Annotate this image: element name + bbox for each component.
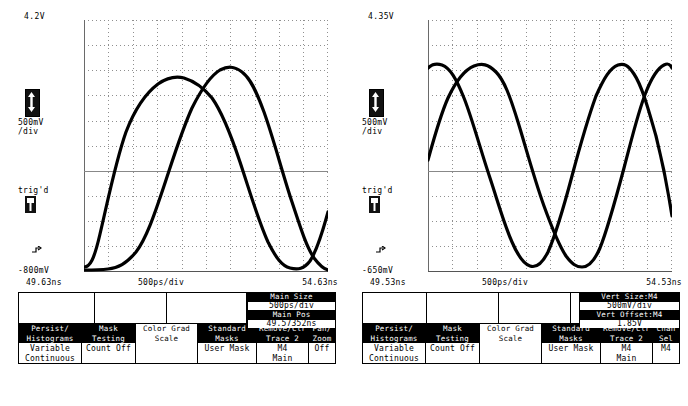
time-left-label-left: 49.63ns [26, 278, 62, 287]
menu-header-line2-5-left: Zoom [309, 334, 335, 344]
menu-body-line2-4-right: Main [601, 353, 652, 363]
menu-body-line1-1-left: Count Off [82, 343, 135, 353]
menu-item-color-grad-scale-right[interactable]: Color Grad Scale [480, 324, 542, 363]
menu-body-line1-4-right: M4 [601, 343, 652, 353]
menu-body-line2-5-left [309, 353, 335, 354]
menu-header-line2-0-left: Histograms [19, 334, 81, 344]
menu-blank-cell-1-right[interactable] [363, 293, 427, 323]
menu-header-line2-4-left: Trace 2 [257, 334, 308, 344]
menu-body-line1-3-left: User Mask [198, 343, 256, 353]
time-scale-label-left: 500ps/div [138, 278, 184, 287]
waveform-traces-right [428, 20, 672, 272]
menu-header-line1-0-left: Persist/ [19, 324, 81, 334]
menu-body-line2-2-right [480, 344, 541, 345]
menu-item-standard-masks-right[interactable]: Standard Masks User Mask [542, 324, 601, 363]
time-right-label-left: 54.63ns [302, 278, 338, 287]
menu-item-persist-histograms-left[interactable]: Persist/ Histograms Variable Continuous [19, 324, 82, 363]
waveform-plot-right [428, 20, 672, 272]
menu-blank-cell-2-left[interactable] [95, 293, 167, 323]
vertical-scale-left: 500mV/div [18, 118, 44, 136]
menu-header-line2-2-left: Scale [136, 334, 197, 344]
menu-lower-right: Persist/ Histograms Variable Continuous … [363, 324, 679, 363]
menu-body-line2-3-left [198, 353, 256, 354]
menu-body-line1-1-right: Count Off [426, 343, 479, 353]
menu-item-standard-masks-left[interactable]: Standard Masks User Mask [198, 324, 257, 363]
menu-header-line2-2-right: Scale [480, 334, 541, 344]
menu-item-remove-clr-trace2-left[interactable]: Remove/Clr Trace 2 M4 Main [257, 324, 309, 363]
vertical-top-label-left: 4.2V [24, 12, 45, 21]
menu-item-mask-testing-right[interactable]: Mask Testing Count Off [426, 324, 480, 363]
readout-value-1-right: 1.85V [580, 320, 679, 329]
waveform-plot-left [84, 20, 328, 272]
menu-body-line2-1-left [82, 353, 135, 354]
menu-body-line1-0-left: Variable [19, 343, 81, 353]
menu-bar-left: Main Size 500ps/div Main Pos 49.57352ns … [18, 292, 336, 364]
vertical-scale-unit-right: /div [362, 127, 382, 136]
time-right-label-right: 54.53ns [646, 278, 682, 287]
menu-bar-right: Vert Size:M4 500mV/div Vert Offset:M4 1.… [362, 292, 680, 364]
menu-header-line2-5-right: Sel [653, 334, 679, 344]
vertical-bottom-label-left: -800mV [18, 266, 49, 275]
menu-header-line1-2-left: Color Grad [136, 324, 197, 334]
menu-blank-cell-3-left[interactable] [167, 293, 247, 323]
menu-item-remove-clr-trace2-right[interactable]: Remove/Clr Trace 2 M4 Main [601, 324, 653, 363]
menu-upper-left: Main Size 500ps/div Main Pos 49.57352ns [19, 293, 335, 324]
menu-header-line2-0-right: Histograms [363, 334, 425, 344]
menu-header-line2-1-left: Testing [82, 334, 135, 344]
scope-panel-right: 4.35V 500mV/div trig'd [344, 0, 688, 406]
menu-header-line1-2-right: Color Grad [480, 324, 541, 334]
vertical-bottom-label-right: -650mV [362, 266, 393, 275]
vertical-scale-right: 500mV/div [362, 118, 388, 136]
menu-body-line2-2-left [136, 344, 197, 345]
menu-blank-cell-1-left[interactable] [19, 293, 95, 323]
menu-body-line1-5-right: M4 [653, 343, 679, 353]
menu-body-line2-4-left: Main [257, 353, 308, 363]
time-left-label-right: 49.53ns [370, 278, 406, 287]
trigger-level-icon-right [369, 196, 380, 213]
up-down-arrow-icon-left [25, 89, 40, 117]
menu-item-persist-histograms-right[interactable]: Persist/ Histograms Variable Continuous [363, 324, 426, 363]
menu-item-chan-sel-right[interactable]: Chan Sel M4 [653, 324, 679, 363]
menu-header-line2-1-right: Testing [426, 334, 479, 344]
readout-value-1-left: 49.57352ns [248, 320, 335, 329]
ground-marker-icon-right [376, 246, 386, 256]
menu-body-line2-0-left: Continuous [19, 353, 81, 363]
menu-lower-left: Persist/ Histograms Variable Continuous … [19, 324, 335, 363]
vertical-scale-value-left: 500mV [18, 118, 44, 127]
menu-header-line1-0-right: Persist/ [363, 324, 425, 334]
menu-body-line1-5-left: Off [309, 343, 335, 353]
menu-header-line2-3-left: Masks [198, 334, 256, 344]
menu-body-line2-0-right: Continuous [363, 353, 425, 363]
menu-body-line2-1-right [426, 353, 479, 354]
menu-blank-cell-2-right[interactable] [427, 293, 499, 323]
oscilloscope-dual-capture: 4.2V 500mV/div trig'd [0, 0, 688, 406]
menu-body-line1-3-right: User Mask [542, 343, 600, 353]
menu-header-line2-4-right: Trace 2 [601, 334, 652, 344]
menu-body-line1-4-left: M4 [257, 343, 308, 353]
menu-header-line1-1-left: Mask [82, 324, 135, 334]
menu-upper-right: Vert Size:M4 500mV/div Vert Offset:M4 1.… [363, 293, 679, 324]
vertical-scale-unit-left: /div [18, 127, 38, 136]
menu-body-line2-3-right [542, 353, 600, 354]
menu-header-line2-3-right: Masks [542, 334, 600, 344]
menu-blank-cell-3-right[interactable] [499, 293, 571, 323]
scope-panel-left: 4.2V 500mV/div trig'd [0, 0, 344, 406]
waveform-traces-left [84, 20, 328, 272]
readout-box-right[interactable]: Vert Size:M4 500mV/div Vert Offset:M4 1.… [579, 293, 679, 327]
vertical-scale-value-right: 500mV [362, 118, 388, 127]
time-scale-label-right: 500ps/div [482, 278, 528, 287]
menu-item-color-grad-scale-left[interactable]: Color Grad Scale [136, 324, 198, 363]
menu-body-line1-0-right: Variable [363, 343, 425, 353]
vertical-top-label-right: 4.35V [368, 12, 394, 21]
menu-item-mask-testing-left[interactable]: Mask Testing Count Off [82, 324, 136, 363]
menu-header-line1-1-right: Mask [426, 324, 479, 334]
menu-body-line2-5-right [653, 353, 679, 354]
up-down-arrow-icon-right [369, 89, 384, 117]
readout-box-left[interactable]: Main Size 500ps/div Main Pos 49.57352ns [247, 293, 335, 327]
ground-marker-icon-left [32, 246, 42, 256]
trigger-level-icon-left [25, 196, 36, 213]
menu-item-pan-zoom-left[interactable]: Pan/ Zoom Off [309, 324, 335, 363]
trigger-status-left: trig'd [18, 186, 49, 195]
time-axis-left: 49.63ns 500ps/div 54.63ns [0, 278, 344, 289]
trigger-status-right: trig'd [362, 186, 393, 195]
